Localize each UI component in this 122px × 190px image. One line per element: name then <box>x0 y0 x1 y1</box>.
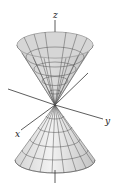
double-cone-diagram: z x y <box>0 0 122 190</box>
upper-cone <box>17 32 93 105</box>
lower-cone <box>15 105 95 173</box>
z-axis-label: z <box>52 10 58 20</box>
y-axis-label: y <box>104 116 111 126</box>
x-axis-label: x <box>15 129 20 139</box>
